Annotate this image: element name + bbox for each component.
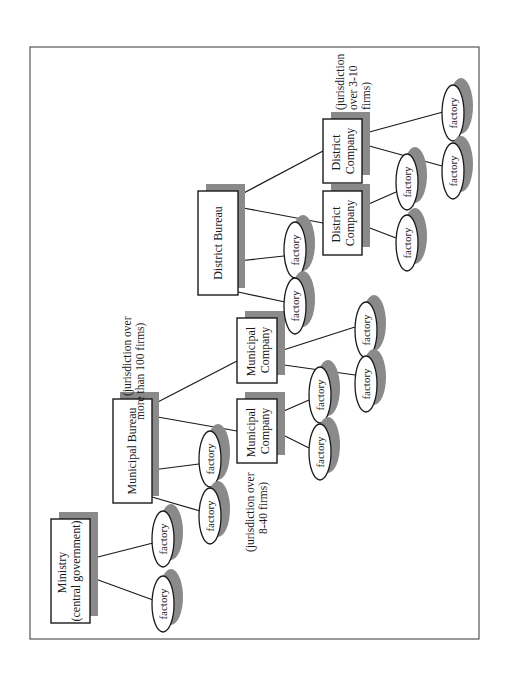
svg-text:factory: factory [314,379,326,411]
org-hierarchy-diagram: Ministry (central government) Municipal … [0,0,507,684]
node-municipal-company-1: Municipal Company [237,311,285,383]
svg-text:factory: factory [360,314,372,346]
svg-text:factory: factory [204,500,216,532]
svg-text:factory: factory [447,155,459,187]
district-company-label: District Company [329,200,357,247]
municipal-company-label: Municipal Company [244,324,272,376]
node-municipal-company-2: Municipal Company [237,392,285,463]
node-district-bureau: District Bureau [198,184,245,295]
node-district-company-2: District Company [323,184,370,255]
svg-text:factory: factory [204,443,216,475]
node-ministry: Ministry (central government) [51,512,98,623]
svg-text:factory: factory [289,234,301,266]
svg-text:factory: factory [314,436,326,468]
svg-text:factory: factory [157,523,169,555]
svg-text:factory: factory [401,166,413,198]
svg-text:factory: factory [360,368,372,400]
svg-text:factory: factory [157,588,169,620]
svg-text:factory: factory [447,97,459,129]
svg-text:factory: factory [401,227,413,259]
district-company-label: District Company [329,128,357,175]
municipal-company-label: Municipal Company [244,405,272,457]
district-bureau-label: District Bureau [211,206,225,280]
node-district-company-1: District Company [323,112,370,183]
svg-text:factory: factory [289,290,301,322]
